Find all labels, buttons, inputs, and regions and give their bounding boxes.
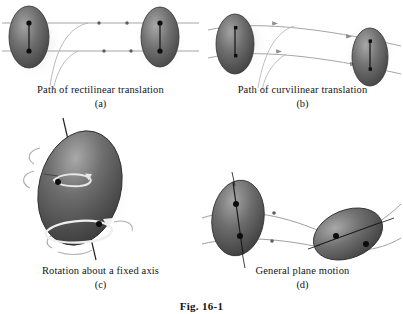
- body: [26, 122, 134, 254]
- axis-stub-right: [380, 218, 394, 223]
- figure-number: Fig. 16-1: [0, 300, 403, 312]
- point-marker: [234, 26, 237, 29]
- panel-c-caption: Rotation about a fixed axis: [0, 264, 201, 277]
- point-marker: [333, 233, 339, 239]
- body-left: [9, 6, 49, 68]
- body-right: [141, 7, 179, 67]
- body-right: [306, 198, 394, 269]
- panel-d-caption: General plane motion: [202, 264, 403, 277]
- point-marker: [26, 48, 31, 53]
- body-right: [352, 28, 388, 86]
- point-marker: [157, 20, 162, 25]
- panel-a-sublabel: (a): [0, 97, 201, 110]
- panel-curvilinear-translation: Path of curvilinear translation (b): [202, 0, 403, 112]
- body-left: [216, 14, 254, 74]
- rotation-rings-front: [58, 250, 92, 254]
- point-marker: [369, 39, 372, 42]
- panel-a-caption: Path of rectilinear translation: [0, 83, 201, 96]
- panel-d-sublabel: (d): [202, 278, 403, 291]
- point-marker: [26, 20, 31, 25]
- panel-b-sublabel: (b): [202, 97, 403, 110]
- point-marker: [96, 221, 102, 227]
- panel-rectilinear-translation: Path of rectilinear translation (a): [0, 0, 201, 112]
- panel-general-plane-motion: General plane motion (d): [202, 112, 403, 302]
- body-left: [207, 172, 269, 268]
- point-marker: [369, 67, 372, 70]
- point-marker: [157, 48, 162, 53]
- point-marker: [55, 179, 61, 185]
- path-midpoints: [97, 21, 132, 52]
- figure-16-1: Path of rectilinear translation (a): [0, 0, 403, 314]
- point-marker: [233, 201, 239, 207]
- path-arrowheads: [272, 21, 356, 66]
- point-marker: [237, 233, 243, 239]
- panel-b-caption: Path of curvilinear translation: [202, 83, 403, 96]
- point-marker: [363, 241, 369, 247]
- panel-rotation-fixed-axis: Rotation about a fixed axis (c): [0, 112, 201, 302]
- point-marker: [234, 54, 237, 57]
- panel-c-sublabel: (c): [0, 278, 201, 291]
